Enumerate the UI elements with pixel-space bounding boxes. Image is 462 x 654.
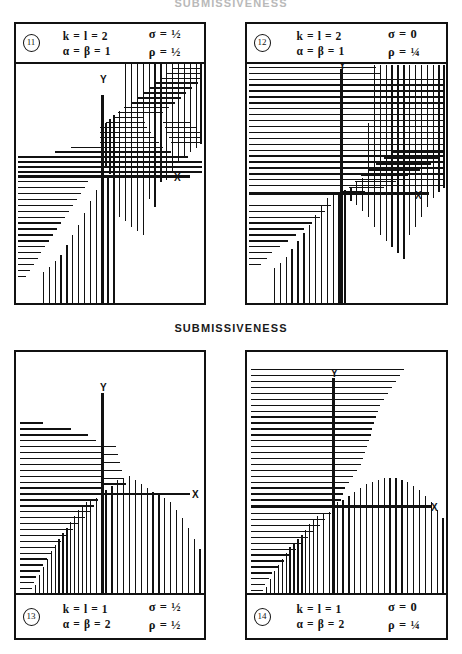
param-kl-14: k = l = 1 [297, 603, 345, 615]
param-alpha-beta-12: α = β = 1 [297, 45, 345, 57]
param-kl-11: k = l = 2 [63, 30, 111, 42]
param-sigma-13: σ = ½ [149, 600, 182, 615]
y-axis-label-13: Y [100, 382, 107, 393]
figure-panel-14: X Y 14 k = l = 1 α = β = 2 σ = 0 ρ = ¼ [245, 350, 448, 640]
panel-number-text-14: 14 [254, 608, 271, 626]
param-alpha-beta-13: α = β = 2 [63, 618, 111, 630]
x-axis-label-14: X [431, 502, 438, 513]
param-alpha-beta-11: α = β = 1 [63, 45, 111, 57]
top-section-title: SUBMISSIVENESS [0, 0, 462, 9]
figure-panel-13: X Y 13 k = l = 1 α = β = 2 σ = ½ ρ = ½ [14, 350, 206, 640]
panel-number-text-12: 12 [254, 34, 271, 52]
panel-number-text-13: 13 [23, 608, 40, 626]
param-kl-13: k = l = 1 [63, 603, 111, 615]
x-axis-label-11: X [174, 172, 181, 183]
param-rho-11: ρ = ½ [149, 45, 182, 60]
figure-panel-12: X Y 12 k = l = 2 α = β = 1 σ = 0 ρ = ¼ [245, 22, 448, 305]
param-alpha-beta-14: α = β = 2 [297, 618, 345, 630]
figure-panel-11: X Y 11 k = l = 2 α = β = 1 σ = ½ ρ = ½ [14, 22, 206, 305]
panel-caption-14: 14 k = l = 1 α = β = 2 σ = 0 ρ = ¼ [247, 593, 446, 638]
plot-area-11 [16, 24, 204, 303]
panel-caption-11: 11 k = l = 2 α = β = 1 σ = ½ ρ = ½ [16, 24, 204, 64]
param-sigma-14: σ = 0 [388, 600, 420, 615]
x-axis-label-12: X [415, 190, 422, 201]
panel-number-12: 12 [251, 36, 273, 51]
hatch-plot-12 [247, 24, 446, 303]
hatch-plot-11 [16, 24, 204, 303]
panel-number-11: 11 [20, 36, 42, 51]
param-rho-14: ρ = ¼ [388, 618, 420, 633]
param-sigma-12: σ = 0 [388, 27, 420, 42]
panel-caption-13: 13 k = l = 1 α = β = 2 σ = ½ ρ = ½ [16, 593, 204, 638]
y-axis-label-14: Y [331, 368, 338, 379]
y-axis-label-11: Y [100, 74, 107, 85]
panel-number-13: 13 [20, 609, 42, 624]
panel-number-text-11: 11 [23, 34, 40, 52]
param-sigma-11: σ = ½ [149, 27, 182, 42]
middle-section-title: SUBMISSIVENESS [0, 322, 462, 334]
plot-area-12 [247, 24, 446, 303]
x-axis-label-13: X [192, 489, 199, 500]
param-kl-12: k = l = 2 [297, 30, 345, 42]
panel-caption-12: 12 k = l = 2 α = β = 1 σ = 0 ρ = ¼ [247, 24, 446, 64]
panel-number-14: 14 [251, 609, 273, 624]
param-rho-12: ρ = ¼ [388, 45, 420, 60]
param-rho-13: ρ = ½ [149, 618, 182, 633]
